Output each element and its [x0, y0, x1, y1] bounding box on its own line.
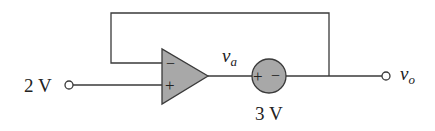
circuit-diagram: 2 V − + va + − 3 V vo	[0, 0, 435, 131]
feedback-wire	[111, 13, 329, 76]
source-plus-sign: +	[253, 67, 263, 86]
opamp-noninverting-sign: +	[165, 76, 175, 95]
node-va-sub: a	[230, 54, 237, 69]
opamp: − +	[162, 49, 208, 104]
output-vo-sub: o	[408, 72, 415, 87]
output-vo-label: vo	[400, 63, 415, 87]
output-terminal	[382, 72, 390, 80]
voltage-source-3v: + −	[252, 59, 286, 93]
node-va-label: va	[222, 45, 237, 69]
opamp-inverting-sign: −	[166, 55, 175, 72]
source-voltage-label: 3 V	[255, 103, 283, 124]
source-minus-sign: −	[271, 67, 280, 84]
input-voltage-label: 2 V	[24, 75, 52, 96]
input-terminal	[65, 81, 73, 89]
